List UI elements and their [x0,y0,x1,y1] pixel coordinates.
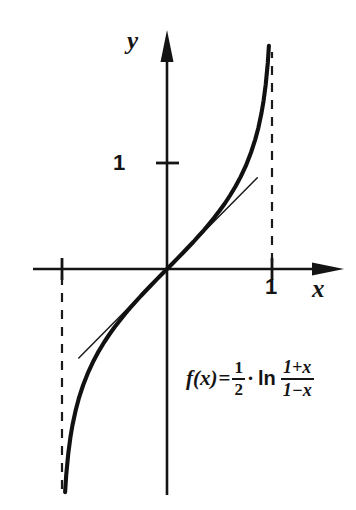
formula-equals-sign: = [218,366,230,391]
function-formula: f(x) = 1 2 · ln 1+x 1−x [186,358,315,400]
formula-log-operator: ln [258,367,276,390]
formula-argument-fraction: 1+x 1−x [281,358,314,400]
formula-argument-numerator: 1+x [281,358,313,377]
function-plot [0,0,356,510]
x-axis-label: x [312,276,325,301]
y-axis-label: y [127,28,138,53]
x-axis-tick-label-one: 1 [265,276,277,298]
formula-argument-denominator: 1−x [281,381,314,400]
formula-multiply-dot: · [247,366,254,391]
formula-coefficient-fraction: 1 2 [232,359,245,399]
formula-coefficient-numerator: 1 [232,359,245,377]
y-axis-tick-label-one: 1 [113,152,125,174]
formula-lhs: f(x) [186,366,217,391]
formula-coefficient-denominator: 2 [232,381,245,399]
